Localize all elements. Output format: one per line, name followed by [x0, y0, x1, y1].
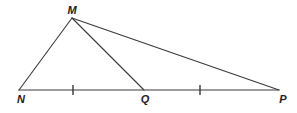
vertex-label-q: Q [141, 94, 150, 105]
vertex-label-n: N [17, 94, 25, 105]
segment-mn [19, 18, 72, 90]
vertex-label-p: P [279, 94, 286, 105]
segment-mq [72, 18, 144, 90]
segment-mp [72, 18, 279, 90]
vertex-label-m: M [67, 5, 76, 16]
